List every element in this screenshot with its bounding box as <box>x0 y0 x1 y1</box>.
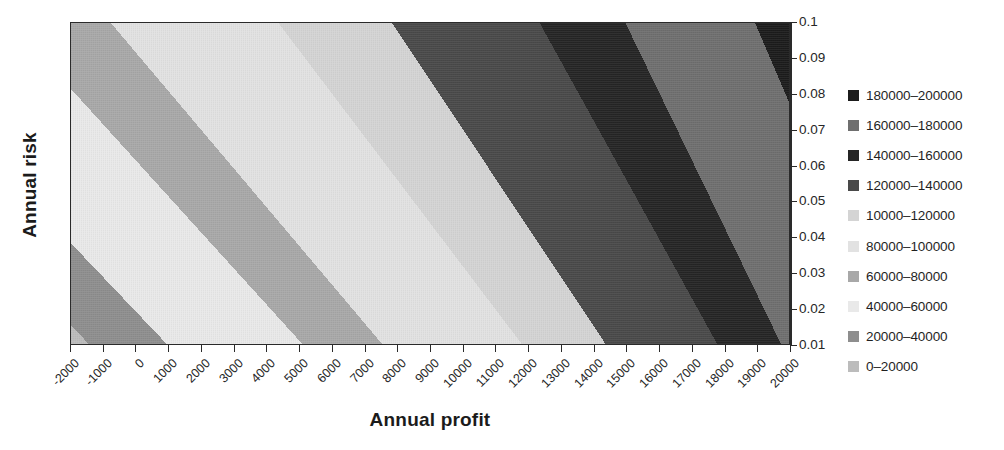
x-axis-tick <box>365 345 366 352</box>
plot-area[interactable] <box>70 22 790 345</box>
x-axis-tick <box>397 345 398 352</box>
y-axis-title: Annual risk <box>18 60 42 310</box>
x-axis-tick <box>463 345 464 352</box>
legend: 180000–200000160000–180000140000–1600001… <box>848 80 998 382</box>
x-axis-tick <box>70 345 71 352</box>
legend-swatch-icon <box>848 150 859 161</box>
y-axis-tick-label: 0.04 <box>799 230 825 244</box>
y-axis-tick <box>790 309 797 310</box>
y-axis-ticks <box>790 22 799 345</box>
legend-item-label: 120000–140000 <box>866 178 962 193</box>
legend-swatch-icon <box>848 210 859 221</box>
legend-swatch-icon <box>848 120 859 131</box>
legend-swatch-icon <box>848 271 859 282</box>
y-axis-tick <box>790 345 797 346</box>
y-axis-tick-label: 0.09 <box>799 51 825 65</box>
y-axis-tick <box>790 273 797 274</box>
legend-swatch-icon <box>848 301 859 312</box>
legend-item-label: 80000–100000 <box>866 239 955 254</box>
band-polygons <box>71 23 789 344</box>
x-axis-tick <box>626 345 627 352</box>
legend-item-label: 140000–160000 <box>866 148 962 163</box>
x-axis-ticks <box>70 345 790 353</box>
legend-item[interactable]: 10000–120000 <box>848 201 998 231</box>
y-axis-tick <box>790 201 797 202</box>
legend-item-label: 0–20000 <box>866 359 918 374</box>
legend-item-label: 60000–80000 <box>866 269 948 284</box>
x-axis-tick <box>266 345 267 352</box>
legend-item[interactable]: 80000–100000 <box>848 231 998 261</box>
x-axis-tick <box>430 345 431 352</box>
legend-item-label: 10000–120000 <box>866 208 955 223</box>
y-axis-tick-label: 0.03 <box>799 266 825 280</box>
y-axis-tick-label: 0.1 <box>799 15 818 29</box>
legend-item[interactable]: 180000–200000 <box>848 80 998 110</box>
legend-item-label: 40000–60000 <box>866 299 948 314</box>
legend-item-label: 180000–200000 <box>866 88 962 103</box>
x-axis-title: Annual profit <box>70 409 790 431</box>
x-axis-tick <box>234 345 235 352</box>
legend-item[interactable]: 20000–40000 <box>848 322 998 352</box>
x-axis-tick <box>201 345 202 352</box>
y-axis-tick <box>790 237 797 238</box>
x-axis-tick <box>135 345 136 352</box>
x-axis-tick <box>561 345 562 352</box>
legend-swatch-icon <box>848 180 859 191</box>
legend-item[interactable]: 160000–180000 <box>848 110 998 140</box>
y-axis-tick <box>790 166 797 167</box>
plot-bands <box>71 23 789 344</box>
x-axis-tick <box>757 345 758 352</box>
x-axis-tick <box>103 345 104 352</box>
y-axis-tick <box>790 94 797 95</box>
x-axis-tick <box>495 345 496 352</box>
y-axis-tick-label: 0.01 <box>799 338 825 352</box>
x-axis-tick <box>790 345 791 352</box>
x-axis-tick <box>594 345 595 352</box>
legend-item[interactable]: 60000–80000 <box>848 261 998 291</box>
x-axis-tick <box>528 345 529 352</box>
legend-item[interactable]: 140000–160000 <box>848 140 998 170</box>
y-axis-tick-label: 0.06 <box>799 159 825 173</box>
y-axis-tick-label: 0.02 <box>799 302 825 316</box>
y-axis-tick-label: 0.05 <box>799 194 825 208</box>
legend-item[interactable]: 0–20000 <box>848 352 998 382</box>
y-axis-tick <box>790 130 797 131</box>
legend-swatch-icon <box>848 241 859 252</box>
legend-item-label: 20000–40000 <box>866 329 948 344</box>
legend-swatch-icon <box>848 90 859 101</box>
x-axis-tick <box>299 345 300 352</box>
x-axis-tick <box>659 345 660 352</box>
legend-item-label: 160000–180000 <box>866 118 962 133</box>
legend-swatch-icon <box>848 361 859 372</box>
x-axis-tick <box>692 345 693 352</box>
legend-swatch-icon <box>848 331 859 342</box>
y-axis-tick-label: 0.08 <box>799 87 825 101</box>
contour-chart: Annual risk -2000-1000010002000300040005… <box>0 0 1004 450</box>
x-axis-tick <box>725 345 726 352</box>
y-axis-tick-label: 0.07 <box>799 123 825 137</box>
x-axis-tick <box>168 345 169 352</box>
x-axis-tick <box>332 345 333 352</box>
legend-item[interactable]: 40000–60000 <box>848 291 998 321</box>
legend-item[interactable]: 120000–140000 <box>848 171 998 201</box>
